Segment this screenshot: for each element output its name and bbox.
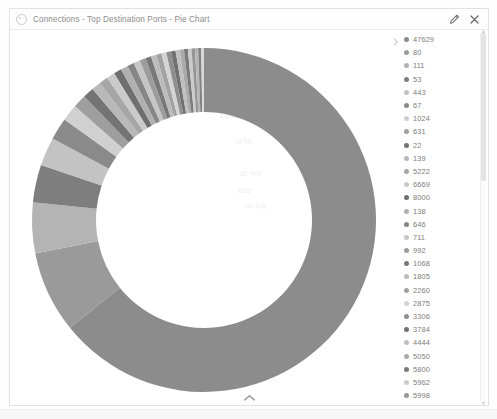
legend-item[interactable]: 138 (404, 204, 479, 217)
legend-swatch-icon (404, 367, 409, 372)
legend-swatch-icon (404, 195, 409, 200)
legend-scrollbar-thumb[interactable] (481, 33, 486, 181)
legend-item[interactable]: 53 (404, 73, 479, 86)
legend-item[interactable]: 80 (404, 46, 479, 59)
legend-swatch-icon (404, 222, 409, 227)
legend-item-label: 3306 (413, 312, 430, 321)
legend-item-label: 111 (413, 61, 425, 70)
legend-item[interactable]: 1805 (404, 270, 479, 283)
legend-swatch-icon (404, 235, 409, 240)
legend-item[interactable]: 5998 (404, 389, 479, 402)
legend-item[interactable]: 1068 (404, 257, 479, 270)
legend-swatch-icon (404, 301, 409, 306)
panel-body: uge gam rules win at we nse racing (10, 30, 488, 405)
legend-item[interactable]: 1024 (404, 112, 479, 125)
panel-header-actions (449, 14, 482, 25)
legend-swatch-icon (404, 37, 409, 42)
legend-item-label: 5222 (413, 167, 430, 176)
chart-panel: Connections - Top Destination Ports - Pi… (9, 8, 489, 406)
legend-item[interactable]: 631 (404, 125, 479, 138)
legend-swatch-icon (404, 288, 409, 293)
page-bottom-strip (0, 409, 497, 419)
caret-down-icon[interactable]: ▼ (481, 401, 486, 405)
donut-chart-svg[interactable] (24, 40, 384, 400)
legend-item-label: 6669 (413, 180, 430, 189)
legend-swatch-icon (404, 129, 409, 134)
legend-item[interactable]: 711 (404, 231, 479, 244)
donut-chart[interactable] (24, 40, 384, 400)
legend-item[interactable]: 5050 (404, 350, 479, 363)
legend-item-label: 3784 (413, 325, 430, 334)
legend-item-label: 80 (413, 48, 421, 57)
legend-swatch-icon (404, 209, 409, 214)
chevron-right-icon[interactable] (390, 34, 401, 50)
legend-item[interactable]: 2875 (404, 297, 479, 310)
caret-up-icon[interactable]: ▲ (481, 30, 486, 34)
legend-item[interactable]: 67 (404, 99, 479, 112)
legend-item[interactable]: 443 (404, 86, 479, 99)
legend-item-label: 992 (413, 246, 426, 255)
legend-item[interactable]: 111 (404, 59, 479, 72)
legend-item-label: 8000 (413, 193, 430, 202)
legend-item-label: 631 (413, 127, 426, 136)
legend-swatch-icon (404, 90, 409, 95)
legend-swatch-icon (404, 77, 409, 82)
legend-item[interactable]: 139 (404, 152, 479, 165)
pencil-icon[interactable] (449, 14, 460, 25)
legend-item[interactable]: 5800 (404, 363, 479, 376)
legend-swatch-icon (404, 103, 409, 108)
legend-swatch-icon (404, 380, 409, 385)
gear-icon[interactable] (16, 14, 27, 25)
legend-item[interactable]: 22 (404, 139, 479, 152)
legend-item-label: 138 (413, 207, 426, 216)
legend-swatch-icon (404, 314, 409, 319)
legend-item[interactable]: 646 (404, 218, 479, 231)
legend-swatch-icon (404, 354, 409, 359)
legend-item[interactable]: 47629 (404, 33, 479, 46)
legend-item-label: 5998 (413, 391, 430, 400)
legend-swatch-icon (404, 340, 409, 345)
legend-swatch-icon (404, 143, 409, 148)
legend-item[interactable]: 3784 (404, 323, 479, 336)
legend-item-label: 443 (413, 88, 426, 97)
legend-item-label: 1068 (413, 259, 430, 268)
legend-item[interactable]: 5222 (404, 165, 479, 178)
chevron-up-icon[interactable] (239, 392, 259, 403)
panel-title: Connections - Top Destination Ports - Pi… (33, 15, 449, 24)
screenshot-root: Connections - Top Destination Ports - Pi… (0, 0, 497, 419)
legend-item-list[interactable]: 4762980111534436710246312213952226669800… (404, 33, 479, 403)
legend-item[interactable]: 2260 (404, 284, 479, 297)
legend-swatch-icon (404, 169, 409, 174)
legend-item[interactable]: 6669 (404, 178, 479, 191)
legend-swatch-icon (404, 63, 409, 68)
legend-swatch-icon (404, 50, 409, 55)
legend-item[interactable]: 7002 (404, 402, 479, 403)
legend-scrollbar[interactable] (480, 33, 486, 402)
legend-swatch-icon (404, 393, 409, 398)
legend-item[interactable]: 3306 (404, 310, 479, 323)
legend-item-label: 646 (413, 220, 426, 229)
legend-swatch-icon (404, 274, 409, 279)
legend-item[interactable]: 4444 (404, 336, 479, 349)
chart-legend: 4762980111534436710246312213952226669800… (390, 30, 488, 405)
legend-item[interactable]: 8000 (404, 191, 479, 204)
legend-item-label: 139 (413, 154, 426, 163)
legend-swatch-icon (404, 248, 409, 253)
legend-item[interactable]: 992 (404, 244, 479, 257)
legend-item-label: 4444 (413, 338, 430, 347)
legend-item-label: 1805 (413, 272, 430, 281)
legend-item-label: 1024 (413, 114, 430, 123)
legend-swatch-icon (404, 261, 409, 266)
legend-item-label: 5962 (413, 378, 430, 387)
legend-swatch-icon (404, 182, 409, 187)
legend-item-label: 67 (413, 101, 421, 110)
legend-item-label: 2260 (413, 286, 430, 295)
close-icon[interactable] (469, 14, 480, 25)
legend-item-label: 22 (413, 141, 421, 150)
legend-item[interactable]: 5962 (404, 376, 479, 389)
legend-swatch-icon (404, 116, 409, 121)
legend-item-label: 47629 (413, 35, 434, 44)
legend-swatch-icon (404, 156, 409, 161)
legend-item-label: 2875 (413, 299, 430, 308)
legend-item-label: 5050 (413, 352, 430, 361)
